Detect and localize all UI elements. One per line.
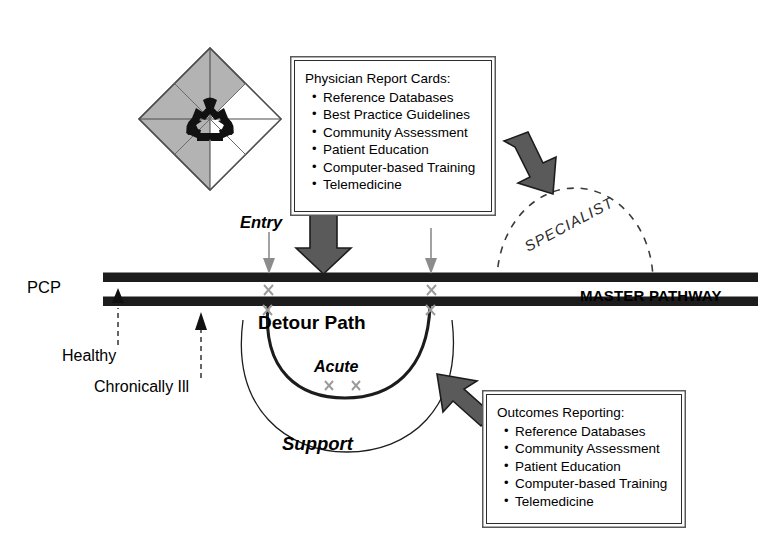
master-pathway-label: MASTER PATHWAY xyxy=(580,287,722,304)
list-item: Computer-based Training xyxy=(515,475,673,492)
acute-label: Acute xyxy=(314,358,358,376)
support-label: Support xyxy=(282,433,353,455)
healthy-label: Healthy xyxy=(62,347,116,365)
exit-thin-arrow xyxy=(425,228,437,274)
outcomes-reporting-list: Reference Databases Community Assessment… xyxy=(497,423,673,510)
physician-down-arrow xyxy=(296,212,351,274)
x-marker-acute-left xyxy=(325,381,333,390)
list-item: Community Assessment xyxy=(323,124,483,141)
specialist-label: SPECIALIST xyxy=(521,193,617,255)
recycling-diamond-logo xyxy=(139,48,281,190)
list-item: Reference Databases xyxy=(323,89,483,106)
outcomes-reporting-box: Outcomes Reporting: Reference Databases … xyxy=(486,394,682,524)
chronically-ill-leader xyxy=(195,312,207,378)
list-item: Reference Databases xyxy=(515,423,673,440)
specialist-dashed-curve xyxy=(497,188,653,281)
list-item: Telemedicine xyxy=(323,176,483,193)
physician-report-cards-box: Physician Report Cards: Reference Databa… xyxy=(294,60,492,212)
x-marker-acute-right xyxy=(352,381,360,390)
pcp-label: PCP xyxy=(27,278,61,297)
chronically-ill-label: Chronically Ill xyxy=(94,378,189,396)
master-pathway-top-bar xyxy=(103,273,758,283)
list-item: Community Assessment xyxy=(515,440,673,457)
list-item: Patient Education xyxy=(323,141,483,158)
pcp-marker-triangle xyxy=(112,288,124,303)
entry-thin-arrow xyxy=(263,232,275,274)
entry-label: Entry xyxy=(240,213,282,232)
detour-path-label: Detour Path xyxy=(258,312,366,334)
x-marker-entry-upper xyxy=(264,285,273,295)
outcomes-reporting-title: Outcomes Reporting: xyxy=(497,404,673,421)
list-item: Computer-based Training xyxy=(323,159,483,176)
list-item: Patient Education xyxy=(515,458,673,475)
x-marker-exit-upper xyxy=(427,285,436,295)
chronically-ill-arrowhead xyxy=(195,312,207,330)
physician-report-cards-title: Physician Report Cards: xyxy=(305,70,483,87)
diagram-canvas: SPECIALIST xyxy=(0,0,778,542)
list-item: Best Practice Guidelines xyxy=(323,106,483,123)
specialist-diagonal-arrow xyxy=(504,132,556,194)
specialist-arc: SPECIALIST xyxy=(497,188,653,281)
outcomes-diagonal-arrow xyxy=(437,374,492,426)
physician-report-cards-list: Reference Databases Best Practice Guidel… xyxy=(305,89,483,193)
list-item: Telemedicine xyxy=(515,493,673,510)
